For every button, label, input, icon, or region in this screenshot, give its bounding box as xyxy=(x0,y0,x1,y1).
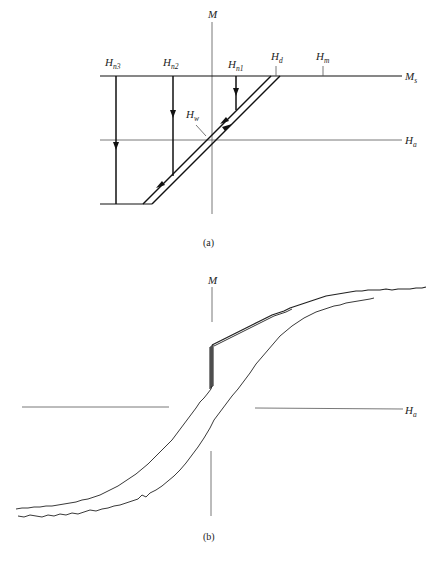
panel-b: M Ha (b) xyxy=(16,274,426,543)
figure: M Ms Ha Hn3 Hn2 Hn1 Hd Hm Hw xyxy=(0,0,447,564)
ms-label: Ms xyxy=(404,70,417,85)
m-axis-label-a: M xyxy=(207,8,218,20)
hw-pointer xyxy=(196,125,206,136)
jump-segment xyxy=(210,345,213,389)
panel-a: M Ms Ha Hn3 Hn2 Hn1 Hd Hm Hw xyxy=(100,8,417,249)
caption-b: (b) xyxy=(203,531,215,543)
hd-label: Hd xyxy=(270,50,283,65)
hysteresis-curve-left-branch xyxy=(16,386,212,509)
hysteresis-curve-upper-saturation xyxy=(212,287,426,345)
hn2-label: Hn2 xyxy=(162,56,179,71)
arrow-down-icon xyxy=(113,142,119,150)
ha-axis-b-right xyxy=(255,408,403,409)
ha-label-a: Ha xyxy=(404,134,417,149)
hysteresis-curve-upper-overlap xyxy=(214,309,292,346)
arrow-down-icon xyxy=(233,88,239,96)
hm-label: Hm xyxy=(315,50,330,65)
hn3-label: Hn3 xyxy=(104,56,121,71)
caption-a: (a) xyxy=(203,237,214,249)
m-axis-label-b: M xyxy=(207,274,218,286)
arrow-down-icon xyxy=(170,110,176,118)
hw-label: Hw xyxy=(185,108,199,123)
hn1-label: Hn1 xyxy=(227,58,243,73)
ha-label-b: Ha xyxy=(404,404,417,419)
